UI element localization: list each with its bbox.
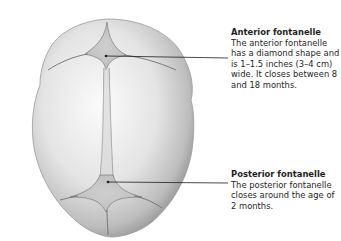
- anterior-fontanelle-title: Anterior fontanelle: [231, 27, 341, 38]
- posterior-fontanelle-callout: Posterior fontanelle The posterior fonta…: [231, 169, 341, 211]
- anterior-fontanelle-description: The anterior fontanelle has a diamond sh…: [231, 38, 341, 91]
- posterior-fontanelle-title: Posterior fontanelle: [231, 169, 341, 180]
- anterior-fontanelle-callout: Anterior fontanelle The anterior fontane…: [231, 27, 341, 91]
- posterior-fontanelle-description: The posterior fontanelle closes around t…: [231, 180, 341, 212]
